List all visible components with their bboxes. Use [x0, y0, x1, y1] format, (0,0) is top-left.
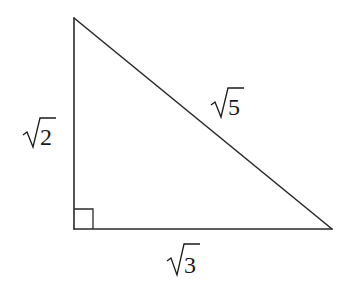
label-hypotenuse-value: 5 — [228, 94, 240, 120]
right-angle-marker — [74, 209, 93, 229]
label-left-value: 2 — [40, 124, 52, 150]
hypotenuse — [74, 18, 332, 229]
label-hypotenuse: 5 — [211, 88, 244, 120]
label-bottom-side: 3 — [167, 244, 200, 278]
label-bottom-value: 3 — [184, 252, 196, 278]
label-left-side: 2 — [23, 118, 56, 150]
right-triangle-diagram: 2 5 3 — [0, 0, 358, 295]
